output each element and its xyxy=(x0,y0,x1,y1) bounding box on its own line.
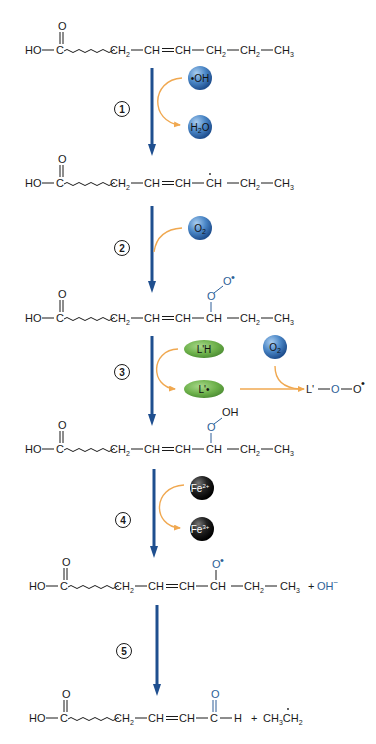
svg-text:CH: CH xyxy=(274,177,290,189)
svg-text:CH: CH xyxy=(274,443,290,455)
svg-text:2: 2 xyxy=(256,450,260,457)
svg-text:3: 3 xyxy=(290,319,294,326)
svg-text:CH: CH xyxy=(240,177,256,189)
svg-text:O: O xyxy=(211,688,220,700)
molecule-hydroperoxide: CH O OH CH2 CH3 xyxy=(25,406,294,457)
svg-text:•: • xyxy=(361,377,365,389)
svg-text:3: 3 xyxy=(290,184,294,191)
svg-text:CH: CH xyxy=(240,443,256,455)
svg-text:3: 3 xyxy=(119,367,125,378)
svg-text:CH: CH xyxy=(206,44,222,56)
molecule-peroxyl-radical: CH O O • CH2 CH3 xyxy=(25,271,294,326)
molecule-alkoxyl-radical: CH O • CH2 CH3 + OH− xyxy=(29,554,339,594)
svg-text:2: 2 xyxy=(222,51,226,58)
lipid-peroxidation-diagram: HO C O CH2 CH CH CH2 CH2 CH3 1 •OH xyxy=(0,0,376,744)
step-1: 1 •OH H2O xyxy=(115,66,213,150)
svg-text:CH3CH2: CH3CH2 xyxy=(263,712,303,726)
svg-text:2: 2 xyxy=(260,587,264,594)
svg-text:3: 3 xyxy=(290,450,294,457)
svg-text:5: 5 xyxy=(121,646,127,657)
step-3: 3 L'H L'• O2 L' O O • xyxy=(115,335,366,420)
svg-text:+: + xyxy=(308,580,314,592)
svg-text:4: 4 xyxy=(120,515,126,526)
lipid-peroxyl-side-product: L' O O • xyxy=(306,377,365,395)
svg-text:L'•: L'• xyxy=(199,384,210,395)
svg-text:2: 2 xyxy=(256,184,260,191)
svg-text:3: 3 xyxy=(296,587,300,594)
svg-text:CH: CH xyxy=(244,580,260,592)
svg-text:CH: CH xyxy=(274,312,290,324)
svg-text:C: C xyxy=(210,712,218,724)
svg-text:L'H: L'H xyxy=(197,344,212,355)
step-4: 4 Fe2+ Fe3+ xyxy=(116,469,215,552)
svg-text:CH: CH xyxy=(206,177,222,189)
svg-text:2: 2 xyxy=(119,243,125,254)
svg-text:2: 2 xyxy=(256,51,260,58)
svg-text:L': L' xyxy=(306,383,314,395)
svg-text:CH: CH xyxy=(280,580,296,592)
svg-text:•: • xyxy=(220,554,224,566)
svg-text:•: • xyxy=(231,271,235,283)
svg-text:OH−: OH− xyxy=(317,578,339,592)
svg-text:2: 2 xyxy=(256,319,260,326)
molecule-lipid-radical: CH CH2 CH3 xyxy=(25,153,294,191)
molecule-aldehyde: C O H + CH3CH2 xyxy=(29,688,303,726)
svg-text:CH: CH xyxy=(274,44,290,56)
svg-text:CH: CH xyxy=(210,580,226,592)
svg-text:O: O xyxy=(207,421,216,433)
svg-text:•OH: •OH xyxy=(191,73,210,84)
step-2: 2 O2 xyxy=(115,206,213,287)
svg-text:O: O xyxy=(331,383,340,395)
svg-text:3: 3 xyxy=(290,51,294,58)
svg-text:+: + xyxy=(251,712,257,724)
svg-text:OH: OH xyxy=(222,406,239,418)
svg-text:CH: CH xyxy=(206,312,222,324)
step-5: 5 xyxy=(117,605,158,690)
svg-text:O: O xyxy=(207,290,216,302)
molecule-fatty-acid: CH2 CH2 CH3 xyxy=(25,20,294,58)
svg-text:CH: CH xyxy=(240,44,256,56)
svg-text:H: H xyxy=(234,712,242,724)
svg-text:1: 1 xyxy=(119,104,125,115)
svg-text:CH: CH xyxy=(240,312,256,324)
svg-text:CH: CH xyxy=(206,443,222,455)
